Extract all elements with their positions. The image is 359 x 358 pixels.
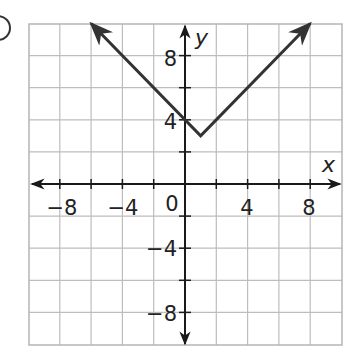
problem-number-circle	[0, 16, 10, 40]
x-tick-label-neg4: −4	[108, 196, 139, 220]
y-tick-label-8: 8	[164, 47, 177, 71]
origin-label: 0	[165, 192, 178, 216]
x-tick-label-neg8: −8	[47, 196, 78, 220]
coordinate-plane-figure: y x −8 −4 0 4 8 8 4 −4 −8	[0, 0, 359, 358]
x-tick-label-8: 8	[302, 196, 315, 220]
y-tick-label-4: 4	[164, 110, 177, 134]
x-tick-label-4: 4	[240, 196, 253, 220]
y-tick-label-neg8: −8	[146, 302, 177, 326]
x-axis-label: x	[321, 152, 336, 177]
y-tick-label-neg4: −4	[146, 237, 177, 261]
y-axis-label: y	[194, 25, 209, 50]
